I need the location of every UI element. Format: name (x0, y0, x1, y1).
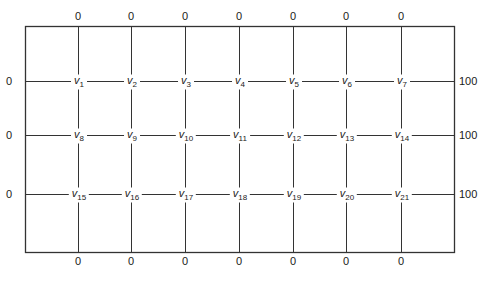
top-boundary-value: 0 (343, 11, 349, 22)
node-index: 12 (292, 134, 301, 143)
top-boundary-value: 0 (75, 11, 81, 22)
bottom-boundary-value: 0 (398, 256, 404, 267)
node-index: 6 (348, 80, 352, 89)
node-index: 11 (239, 134, 247, 143)
grid-node: v7 (394, 75, 410, 90)
top-boundary-value: 0 (398, 11, 404, 22)
top-boundary-value: 0 (128, 11, 134, 22)
grid-node: v6 (339, 75, 355, 90)
node-index: 14 (400, 134, 409, 143)
right-boundary-value: 100 (459, 76, 477, 87)
node-index: 10 (184, 134, 193, 143)
grid-node: v18 (230, 188, 250, 203)
top-boundary-value: 0 (182, 11, 188, 22)
grid-node: v9 (124, 129, 140, 144)
grid-node: v5 (286, 75, 302, 90)
node-index: 20 (345, 193, 354, 202)
node-index: 4 (241, 80, 245, 89)
grid-node: v1 (71, 75, 87, 90)
node-index: 2 (133, 80, 137, 89)
grid-node: v17 (176, 188, 196, 203)
node-index: 9 (133, 134, 137, 143)
bottom-boundary-value: 0 (236, 256, 242, 267)
grid-node: v16 (122, 188, 142, 203)
left-boundary-value: 0 (6, 130, 12, 141)
bottom-boundary-value: 0 (343, 256, 349, 267)
grid-node: v2 (124, 75, 140, 90)
grid-diagram: 00000000000000010001000100v1v2v3v4v5v6v7… (0, 0, 479, 283)
top-boundary-value: 0 (290, 11, 296, 22)
grid-node: v4 (232, 75, 248, 90)
node-index: 16 (130, 193, 139, 202)
grid-node: v3 (178, 75, 194, 90)
grid-node: v19 (284, 188, 304, 203)
node-index: 15 (77, 193, 86, 202)
grid-node: v11 (230, 129, 250, 144)
node-index: 8 (80, 134, 84, 143)
grid-node: v10 (176, 129, 196, 144)
grid-node: v21 (392, 188, 412, 203)
grid-node: v12 (284, 129, 304, 144)
node-index: 5 (295, 80, 299, 89)
node-index: 17 (184, 193, 193, 202)
top-boundary-value: 0 (236, 11, 242, 22)
grid-node: v15 (69, 188, 89, 203)
bottom-boundary-value: 0 (290, 256, 296, 267)
node-index: 19 (292, 193, 301, 202)
bottom-boundary-value: 0 (75, 256, 81, 267)
node-index: 21 (400, 193, 409, 202)
left-boundary-value: 0 (6, 76, 12, 87)
grid-node: v14 (392, 129, 412, 144)
grid-node: v20 (337, 188, 357, 203)
node-index: 7 (403, 80, 407, 89)
node-index: 1 (80, 80, 84, 89)
right-boundary-value: 100 (459, 130, 477, 141)
grid-node: v13 (337, 129, 357, 144)
bottom-boundary-value: 0 (128, 256, 134, 267)
left-boundary-value: 0 (6, 189, 12, 200)
right-boundary-value: 100 (459, 189, 477, 200)
node-index: 3 (187, 80, 191, 89)
node-index: 18 (238, 193, 247, 202)
grid-node: v8 (71, 129, 87, 144)
bottom-boundary-value: 0 (182, 256, 188, 267)
node-index: 13 (345, 134, 354, 143)
